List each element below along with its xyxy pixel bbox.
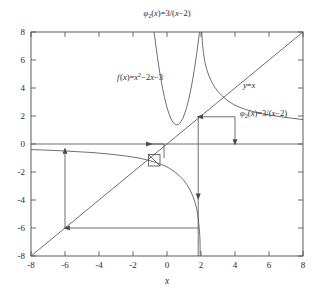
parabola-label: f (x)=x2−2x−3 [117,71,163,82]
y-tick-label: 4 [21,83,26,93]
figure-title-rest: (x)=3/(x−2) [151,8,191,18]
x-tick-label: -8 [27,260,35,270]
hyperbola-label: φ2(x)=3/(x−2) [240,108,287,119]
y-tick-label: 8 [21,27,26,37]
cobweb-small-diagonal [149,155,161,167]
arrowhead-right-axis [146,142,152,147]
y-tick-label: 0 [21,139,26,149]
arrowhead-down-center [196,194,201,200]
x-axis-title: x [164,276,170,286]
figure-container: φ2(x)=3/(x−2) [0,0,322,295]
y-tick-labels: 8 6 4 2 0 -2 -4 -6 -8 [18,27,26,261]
y-tick-label: -8 [18,251,26,261]
cobweb-center [63,147,201,230]
x-tick-label: 4 [233,260,238,270]
x-tick-label: -2 [129,260,137,270]
x-tick-label: -4 [95,260,103,270]
x-tick-label: 6 [267,260,272,270]
figure-title: φ2(x)=3/(x−2) [143,8,190,19]
identity-line-label: y=x [242,80,256,90]
plot-canvas: φ2(x)=3/(x−2) [0,0,322,295]
y-tick-label: -2 [18,167,26,177]
x-tick-labels: -8 -6 -4 -2 0 2 4 6 8 [27,260,306,270]
y-tick-label: 2 [21,111,26,121]
arrowhead-down-right [233,139,238,145]
x-tick-label: 0 [165,260,170,270]
x-tick-label: 2 [199,260,204,270]
x-tick-label: 8 [301,260,306,270]
y-tick-label: 6 [21,55,26,65]
hyperbola-left-branch [31,150,200,256]
x-tick-label: -6 [61,260,69,270]
y-tick-label: -6 [18,223,26,233]
hyperbola-right-branch [202,32,303,120]
y-tick-label: -4 [18,195,26,205]
cobweb-right [197,114,238,256]
